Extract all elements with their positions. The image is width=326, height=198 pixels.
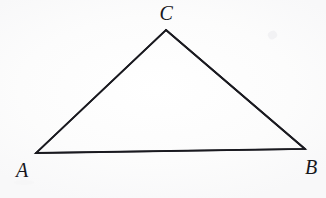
- triangle-drawing: [0, 0, 326, 198]
- edge-a-c: [36, 30, 166, 153]
- edge-a-b: [36, 149, 305, 153]
- vertex-label-b: B: [305, 157, 317, 177]
- vertex-label-c: C: [160, 3, 173, 23]
- triangle-outline: [36, 30, 305, 153]
- vertex-label-a: A: [16, 160, 28, 180]
- edge-c-b: [166, 30, 305, 149]
- geometry-figure: A B C: [0, 0, 326, 198]
